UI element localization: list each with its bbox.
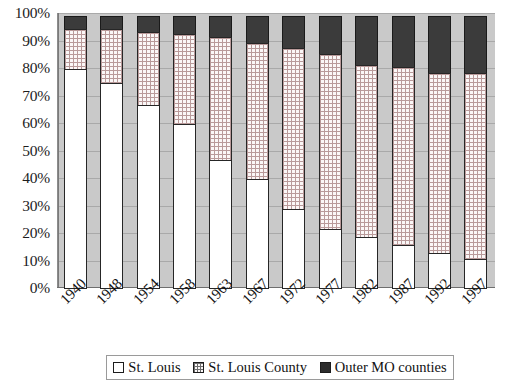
x-axis-tick: 1997	[458, 292, 494, 342]
bar-segment-outer[interactable]	[319, 16, 342, 55]
x-axis-tick: 1987	[385, 292, 421, 342]
stacked-bar[interactable]	[392, 13, 415, 288]
stacked-bar[interactable]	[355, 13, 378, 288]
bar-segment-county[interactable]	[209, 37, 232, 161]
bar-segment-outer[interactable]	[464, 16, 487, 74]
bar-slot	[348, 13, 384, 288]
stacked-bar[interactable]	[100, 13, 123, 288]
stacked-bar[interactable]	[464, 13, 487, 288]
bar-segment-city[interactable]	[137, 105, 160, 289]
y-axis-tick-label: 30%	[22, 198, 50, 214]
bar-segment-county[interactable]	[319, 54, 342, 230]
stacked-bar-chart: 100%90%80%70%60%50%40%30%20%10%0% 194019…	[0, 0, 512, 392]
legend-label: St. Louis County	[208, 359, 307, 376]
y-axis: 100%90%80%70%60%50%40%30%20%10%0%	[0, 0, 56, 300]
bar-group	[57, 13, 494, 288]
bar-slot	[421, 13, 457, 288]
bar-segment-county[interactable]	[464, 73, 487, 260]
y-axis-tick-label: 50%	[22, 143, 50, 159]
bar-segment-outer[interactable]	[137, 16, 160, 33]
x-axis-tick: 1967	[239, 292, 275, 342]
legend-swatch-city	[113, 362, 124, 373]
bar-segment-outer[interactable]	[173, 16, 196, 35]
x-axis-tick: 1963	[203, 292, 239, 342]
stacked-bar[interactable]	[173, 13, 196, 288]
bar-slot	[57, 13, 93, 288]
x-axis-tick: 1982	[348, 292, 384, 342]
bar-segment-county[interactable]	[137, 32, 160, 106]
bar-segment-county[interactable]	[282, 48, 305, 210]
x-axis-tick: 1958	[166, 292, 202, 342]
bar-segment-county[interactable]	[246, 43, 269, 181]
bar-segment-county[interactable]	[392, 67, 415, 246]
x-axis-tick: 1940	[57, 292, 93, 342]
y-axis-tick-label: 70%	[22, 88, 50, 104]
legend-swatch-county	[193, 362, 204, 373]
chart-legend: St. LouisSt. Louis CountyOuter MO counti…	[106, 355, 454, 380]
bar-segment-outer[interactable]	[100, 16, 123, 30]
legend-item[interactable]: St. Louis	[113, 359, 180, 376]
bar-slot	[239, 13, 275, 288]
y-axis-tick-label: 60%	[22, 115, 50, 131]
y-axis-tick-label: 90%	[22, 33, 50, 49]
bar-segment-county[interactable]	[173, 34, 196, 125]
bar-segment-outer[interactable]	[392, 16, 415, 68]
stacked-bar[interactable]	[137, 13, 160, 288]
bar-slot	[276, 13, 312, 288]
bar-segment-city[interactable]	[209, 160, 232, 289]
bar-segment-outer[interactable]	[64, 16, 87, 30]
bar-segment-county[interactable]	[355, 65, 378, 238]
bar-segment-city[interactable]	[173, 124, 196, 289]
bar-slot	[203, 13, 239, 288]
y-axis-tick-label: 100%	[15, 5, 50, 21]
bar-segment-outer[interactable]	[246, 16, 269, 44]
bar-slot	[130, 13, 166, 288]
bar-segment-outer[interactable]	[355, 16, 378, 66]
legend-swatch-outer	[320, 362, 331, 373]
legend-label: Outer MO counties	[335, 359, 447, 376]
y-axis-tick-label: 10%	[22, 253, 50, 269]
x-axis-tick: 1992	[421, 292, 457, 342]
x-axis-tick: 1954	[130, 292, 166, 342]
stacked-bar[interactable]	[282, 13, 305, 288]
bar-segment-city[interactable]	[100, 83, 123, 289]
bar-slot	[458, 13, 494, 288]
legend-label: St. Louis	[128, 359, 180, 376]
bar-slot	[93, 13, 129, 288]
bar-segment-outer[interactable]	[428, 16, 451, 74]
y-axis-tick-label: 0%	[30, 280, 50, 296]
bar-slot	[166, 13, 202, 288]
x-axis-tick: 1948	[93, 292, 129, 342]
x-axis-tick: 1972	[276, 292, 312, 342]
x-axis: 1940194819541958196319671972197719821987…	[57, 292, 494, 344]
bar-segment-city[interactable]	[246, 179, 269, 289]
stacked-bar[interactable]	[209, 13, 232, 288]
bar-segment-city[interactable]	[64, 69, 87, 289]
stacked-bar[interactable]	[64, 13, 87, 288]
bar-segment-county[interactable]	[64, 29, 87, 70]
bar-segment-county[interactable]	[428, 73, 451, 255]
bar-slot	[385, 13, 421, 288]
bar-segment-county[interactable]	[100, 29, 123, 84]
stacked-bar[interactable]	[246, 13, 269, 288]
x-axis-tick: 1977	[312, 292, 348, 342]
stacked-bar[interactable]	[319, 13, 342, 288]
bar-segment-outer[interactable]	[282, 16, 305, 49]
y-axis-tick-label: 40%	[22, 170, 50, 186]
bar-segment-outer[interactable]	[209, 16, 232, 38]
stacked-bar[interactable]	[428, 13, 451, 288]
y-axis-tick-label: 80%	[22, 60, 50, 76]
legend-item[interactable]: St. Louis County	[193, 359, 307, 376]
y-axis-tick-label: 20%	[22, 225, 50, 241]
bar-slot	[312, 13, 348, 288]
legend-item[interactable]: Outer MO counties	[320, 359, 447, 376]
